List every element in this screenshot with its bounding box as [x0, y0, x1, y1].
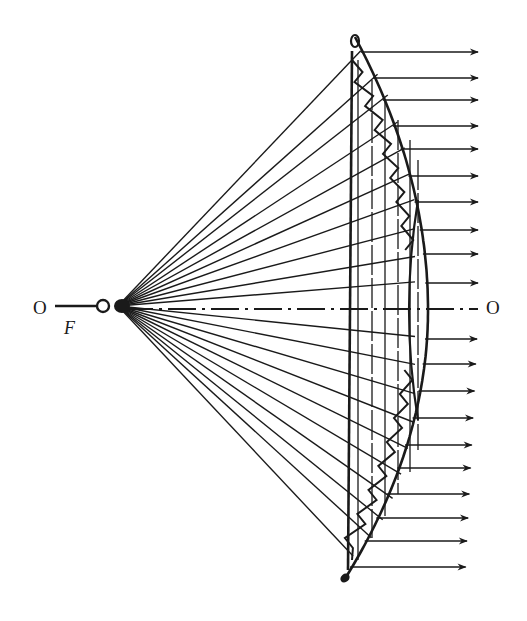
incident-ray — [118, 306, 393, 498]
incident-ray — [118, 306, 415, 364]
incident-ray — [118, 306, 371, 538]
incident-ray — [118, 200, 414, 306]
fresnel-lens-diagram — [0, 0, 527, 621]
incident-rays — [114, 51, 415, 556]
incident-ray — [118, 51, 361, 306]
source-circle — [97, 300, 109, 312]
point-source-icon — [97, 300, 109, 312]
ray-convergence — [114, 299, 130, 313]
incident-ray — [118, 306, 408, 448]
incident-ray — [118, 74, 378, 306]
incident-ray — [118, 306, 383, 520]
axis-label-right: O — [486, 297, 500, 319]
axis-label-left: O — [33, 297, 47, 319]
focus-label: F — [64, 318, 75, 339]
incident-ray — [118, 306, 415, 394]
incident-ray — [118, 306, 353, 556]
lens-flat-face — [348, 51, 352, 570]
incident-ray — [118, 95, 388, 306]
incident-ray — [118, 306, 413, 422]
incident-ray — [118, 122, 398, 306]
